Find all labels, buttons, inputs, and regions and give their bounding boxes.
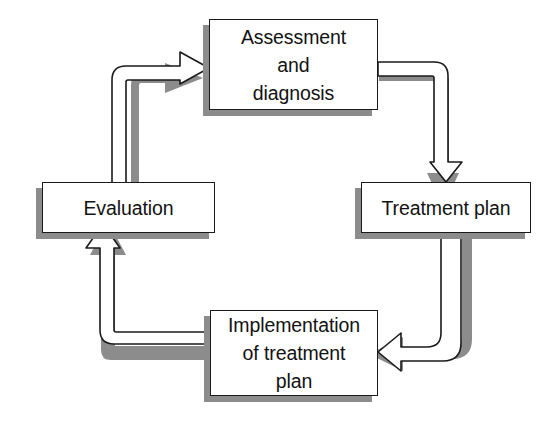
- edge-evaluation-to-assessment: [112, 52, 209, 188]
- node-treatment-plan-label: Treatment plan: [377, 194, 514, 222]
- cycle-diagram: Assessment and diagnosis Treatment plan …: [0, 0, 552, 424]
- node-evaluation[interactable]: Evaluation: [42, 182, 215, 233]
- node-implementation[interactable]: Implementation of treatment plan: [210, 310, 378, 396]
- edge-implementation-to-evaluation: [86, 224, 210, 344]
- node-assessment[interactable]: Assessment and diagnosis: [209, 19, 378, 110]
- edge-treatment-to-implementation: [378, 233, 461, 371]
- node-assessment-label: Assessment and diagnosis: [237, 23, 350, 107]
- node-implementation-label: Implementation of treatment plan: [224, 311, 364, 395]
- node-treatment-plan[interactable]: Treatment plan: [361, 182, 531, 233]
- edge-evaluation-to-assessment-shadow: [117, 63, 203, 201]
- node-evaluation-label: Evaluation: [79, 194, 177, 222]
